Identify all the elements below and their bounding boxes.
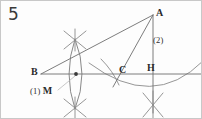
geometry-figure: 5 A B C H (1) M (2)	[0, 0, 202, 119]
step-two-label: (2)	[153, 36, 164, 45]
point-label-h: H	[147, 63, 155, 73]
point-label-a: A	[156, 8, 163, 18]
construction-drawing	[1, 1, 202, 119]
point-label-c: C	[119, 65, 126, 75]
figure-number: 5	[8, 6, 19, 23]
step-one-label: (1) M	[30, 86, 52, 96]
point-label-m: M	[43, 85, 53, 96]
step-one-number: (1)	[30, 86, 41, 96]
point-label-b: B	[31, 67, 38, 77]
leader-line-to-m	[58, 76, 75, 90]
point-marker-m	[74, 72, 78, 76]
